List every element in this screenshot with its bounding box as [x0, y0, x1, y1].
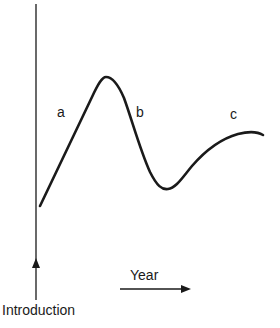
curve-label-a: a: [57, 105, 65, 119]
x-axis-label: Year: [130, 268, 158, 282]
introduction-arrow-icon: [32, 258, 40, 268]
year-arrow-icon: [181, 285, 191, 293]
curve-label-b: b: [136, 105, 144, 119]
life-cycle-curve: [40, 77, 263, 206]
curve-label-c: c: [230, 107, 237, 121]
origin-label: Introduction: [2, 303, 75, 317]
